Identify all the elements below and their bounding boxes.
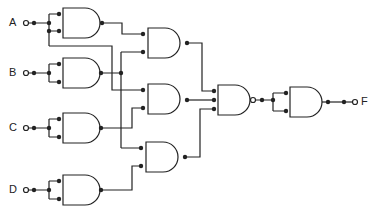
wires	[29, 14, 353, 199]
circuit-svg	[0, 0, 375, 215]
junction-dots	[32, 12, 346, 201]
gate-g2	[63, 58, 100, 88]
gate-g7	[146, 142, 178, 172]
gate-g4	[63, 175, 100, 205]
gate-g6	[148, 84, 180, 114]
gate-g5	[148, 28, 180, 58]
gate-g8-nand3	[218, 85, 256, 115]
logic-circuit-diagram: A B C D F	[0, 0, 375, 215]
gate-g3	[63, 113, 100, 143]
gate-g9	[290, 87, 322, 117]
gate-g1	[63, 8, 100, 38]
